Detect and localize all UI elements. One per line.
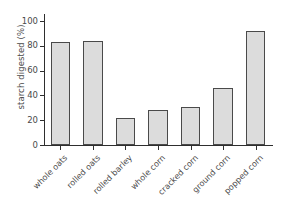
bar-chart-figure: starch digested (%) 020406080100 whole o… — [0, 0, 282, 198]
x-axis-tick-labels: whole oatsrolled oatsrolled barleywhole … — [0, 0, 282, 198]
